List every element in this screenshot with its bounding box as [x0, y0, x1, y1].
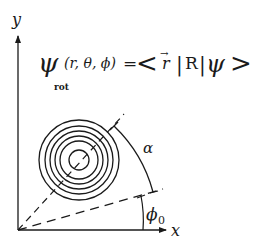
phi0-label: ϕ [146, 204, 158, 224]
phi0-subscript: 0 [158, 214, 165, 227]
rotation-diagram: y x ψ rot (r, θ, ϕ) = < r → | R | ψ > α … [0, 0, 265, 248]
formula-r-arrow: → [160, 48, 169, 59]
rotated-axis-dashed-line [18, 114, 124, 230]
formula-ket-close: > [230, 48, 252, 78]
reference-axis-dashed-line [18, 189, 163, 230]
y-axis-label: y [11, 10, 22, 29]
formula-lhs-args: (r, θ, ϕ) [64, 55, 116, 71]
contour-ring-6 [69, 150, 89, 170]
formula-lhs-psi: ψ [38, 48, 59, 78]
alpha-label: α [143, 139, 153, 157]
formula-operator-r: R [185, 53, 199, 73]
formula-bra-open: < [136, 48, 158, 78]
formula-lhs-subscript: rot [54, 82, 70, 92]
formula-ket-psi: ψ [206, 50, 226, 78]
contour-ring-4 [55, 136, 103, 184]
formula-bar-1: | [176, 52, 183, 77]
phi0-angle-arc [141, 196, 143, 230]
x-axis-label: x [171, 221, 180, 240]
wavefunction-formula: ψ rot (r, θ, ϕ) = < r → | R | ψ > [38, 48, 252, 92]
contour-ring-5 [60, 141, 98, 179]
contour-ring-3 [50, 131, 108, 189]
alpha-angle-arc [114, 126, 153, 192]
formula-bar-2: | [199, 52, 206, 77]
